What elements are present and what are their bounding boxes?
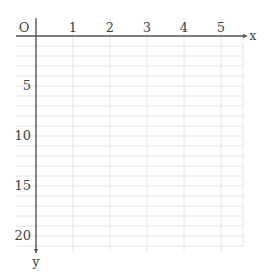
origin-label: O (19, 20, 30, 35)
x-tick-label: 5 (217, 20, 225, 35)
y-tick-label: 20 (14, 228, 31, 243)
grid-lines (16, 18, 243, 251)
x-tick-label: 1 (69, 20, 77, 35)
x-axis-label: x (250, 29, 257, 43)
tick-labels: O123455101520xy (14, 20, 256, 269)
x-tick-label: 3 (143, 20, 151, 35)
coordinate-grid-chart: O123455101520xy (0, 0, 269, 279)
x-axis-arrow-icon (243, 34, 248, 38)
x-tick-label: 4 (180, 20, 188, 35)
y-tick-label: 15 (14, 178, 31, 193)
y-tick-label: 5 (23, 78, 31, 93)
y-tick-label: 10 (14, 128, 31, 143)
x-tick-label: 2 (106, 20, 114, 35)
y-axis-label: y (31, 254, 40, 269)
